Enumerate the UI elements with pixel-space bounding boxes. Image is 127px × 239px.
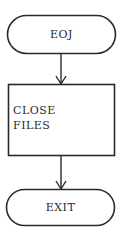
close-files-label: CLOSE FILES — [13, 103, 108, 133]
eoj-label: EOJ — [7, 27, 116, 42]
close-files-label-line2: FILES — [13, 118, 108, 133]
exit-label: EXIT — [6, 200, 115, 215]
close-files-label-line1: CLOSE — [13, 103, 108, 118]
flowchart: EOJ CLOSE FILES EXIT — [0, 0, 127, 239]
